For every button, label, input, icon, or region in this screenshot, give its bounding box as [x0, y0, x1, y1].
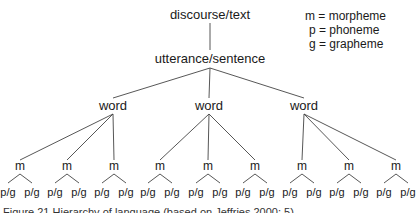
tree-edge [160, 114, 209, 160]
tree-edge [113, 68, 210, 98]
node-morpheme: m [297, 159, 307, 173]
tree-edge [20, 114, 113, 160]
node-phoneme-grapheme: p/g [212, 186, 227, 198]
tree-edge [384, 174, 396, 183]
node-phoneme-grapheme: p/g [235, 186, 250, 198]
tree-edge [55, 174, 67, 183]
language-hierarchy-diagram: discourse/textutterance/sentencewordmp/g… [0, 0, 417, 213]
node-phoneme-grapheme: p/g [188, 186, 203, 198]
legend-item-morpheme: m = morpheme [305, 9, 386, 23]
node-utterance-sentence: utterance/sentence [155, 51, 266, 66]
tree-edge [290, 174, 302, 183]
node-phoneme-grapheme: p/g [306, 186, 321, 198]
tree-edge [243, 174, 255, 183]
tree-edge [148, 174, 160, 183]
node-morpheme: m [62, 159, 72, 173]
tree-edge [209, 114, 255, 160]
node-word: word [194, 98, 223, 113]
node-word: word [98, 98, 127, 113]
tree-edge [113, 114, 114, 160]
tree-edge [20, 174, 32, 183]
figure-caption: Figure 21 Hierarchy of language (based o… [3, 206, 294, 213]
tree-edge [396, 174, 408, 183]
tree-edge [302, 174, 314, 183]
legend: m = morpheme p = phoneme g = grapheme [305, 9, 386, 51]
tree-edge [302, 114, 304, 160]
node-phoneme-grapheme: p/g [329, 186, 344, 198]
node-phoneme-grapheme: p/g [118, 186, 133, 198]
node-morpheme: m [344, 159, 354, 173]
tree-edge [102, 174, 114, 183]
tree-edge [304, 114, 349, 160]
tree-edge [210, 68, 304, 98]
node-morpheme: m [155, 159, 165, 173]
node-phoneme-grapheme: p/g [400, 186, 415, 198]
node-phoneme-grapheme: p/g [24, 186, 39, 198]
node-phoneme-grapheme: p/g [140, 186, 155, 198]
tree-edge [67, 114, 113, 160]
legend-item-phoneme: p = phoneme [309, 23, 380, 37]
tree-edge [208, 114, 209, 160]
node-phoneme-grapheme: p/g [376, 186, 391, 198]
tree-edge [337, 174, 349, 183]
node-morpheme: m [203, 159, 213, 173]
node-phoneme-grapheme: p/g [71, 186, 86, 198]
node-phoneme-grapheme: p/g [94, 186, 109, 198]
node-morpheme: m [109, 159, 119, 173]
node-word: word [289, 98, 318, 113]
tree-edge [114, 174, 126, 183]
node-morpheme: m [250, 159, 260, 173]
tree-edge [67, 174, 79, 183]
node-phoneme-grapheme: p/g [353, 186, 368, 198]
node-phoneme-grapheme: p/g [164, 186, 179, 198]
node-phoneme-grapheme: p/g [259, 186, 274, 198]
node-phoneme-grapheme: p/g [47, 186, 62, 198]
tree-edge [8, 174, 20, 183]
tree-edge [160, 174, 172, 183]
node-morpheme: m [391, 159, 401, 173]
tree-edge [304, 114, 396, 160]
tree-edge [208, 174, 220, 183]
node-phoneme-grapheme: p/g [0, 186, 15, 198]
tree-edge [196, 174, 208, 183]
node-discourse-text: discourse/text [170, 7, 251, 22]
tree-edge [349, 174, 361, 183]
tree-edge [255, 174, 267, 183]
node-morpheme: m [15, 159, 25, 173]
node-phoneme-grapheme: p/g [282, 186, 297, 198]
tree-edge [209, 68, 210, 98]
legend-item-grapheme: g = grapheme [309, 37, 384, 51]
